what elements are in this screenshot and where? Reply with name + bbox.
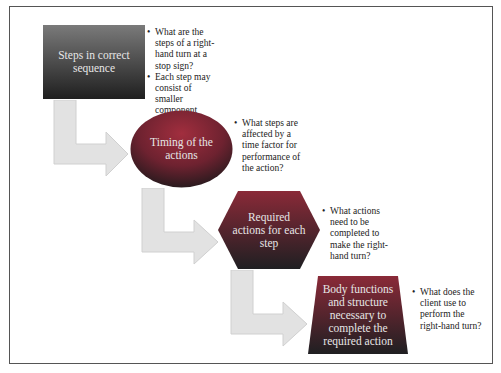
step-4-bullets: What does the client use to perform the … <box>412 287 484 332</box>
step-2-label: Timing of the actions <box>144 110 219 188</box>
step-4-label: Body functions and structure necessary t… <box>318 276 398 354</box>
step-1-rectangle: Steps in correct sequence <box>43 25 145 99</box>
bent-arrow-3 <box>229 270 313 348</box>
step-2-bullets: What steps are affected by a time factor… <box>234 118 306 174</box>
bent-arrow-1 <box>48 100 132 178</box>
bullet: What steps are affected by a time factor… <box>234 118 306 174</box>
step-3-label: Required actions for each step <box>232 191 306 269</box>
step-3-bullets: What actions need to be completed to mak… <box>322 206 392 262</box>
step-4-trapezoid: Body functions and structure necessary t… <box>308 276 408 354</box>
bent-arrow-2 <box>140 188 224 266</box>
step-3-hexagon: Required actions for each step <box>218 191 320 269</box>
bullet: What are the steps of a right-hand turn … <box>147 27 217 72</box>
step-2-ellipse: Timing of the actions <box>130 110 233 188</box>
step-1-label: Steps in correct sequence <box>49 25 139 99</box>
bullet: What does the client use to perform the … <box>412 287 484 332</box>
bullet: What actions need to be completed to mak… <box>322 206 392 262</box>
